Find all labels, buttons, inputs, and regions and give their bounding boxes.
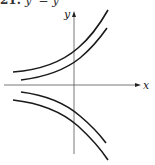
solution-curves-plot: x y: [0, 0, 155, 165]
curve-upper-inner: [21, 28, 107, 80]
curve-lower-outer: [13, 100, 108, 160]
curve-upper-outer: [13, 10, 108, 72]
x-axis-label: x: [143, 79, 150, 92]
y-axis-arrow-icon: [72, 11, 76, 17]
y-axis: y: [63, 8, 76, 154]
x-axis: x: [4, 79, 150, 92]
curve-lower-inner: [21, 92, 106, 143]
x-axis-arrow-icon: [135, 83, 141, 87]
y-axis-label: y: [63, 8, 71, 21]
